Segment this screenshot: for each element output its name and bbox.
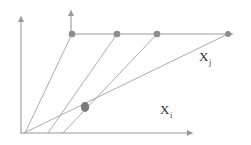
pencil-vertex [81, 102, 89, 112]
point-1 [69, 31, 76, 38]
point-3 [154, 31, 161, 38]
axis-label-xj-subscript: j [208, 58, 211, 67]
ray-2 [48, 34, 117, 133]
axis-label-xi-subscript: i [169, 111, 172, 120]
outer-y-axis-arrow-icon [18, 16, 24, 22]
point-4 [225, 31, 231, 37]
inner-y-axis-arrow-icon [68, 10, 74, 16]
axis-label-xi-base: X [160, 102, 169, 117]
axis-label-xi: Xi [160, 103, 172, 120]
ray-4 [24, 34, 228, 133]
point-2 [114, 31, 121, 38]
diagram-canvas [0, 0, 251, 145]
outer-x-axis-arrow-icon [187, 130, 193, 136]
axis-label-xj-base: X [199, 49, 208, 64]
rays-group [24, 34, 228, 133]
axis-label-xj: Xj [199, 50, 211, 67]
geometry-diagram: Xj Xi [0, 0, 251, 145]
ray-3 [63, 34, 157, 133]
ray-1 [25, 34, 72, 133]
axes-group [18, 10, 233, 136]
